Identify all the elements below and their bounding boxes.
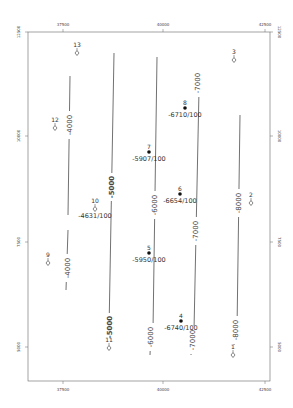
contour-lines: -4000-4000-5000-5000-6000-6000-7000-7000…: [63, 53, 243, 355]
contour-label: -5000: [108, 176, 116, 199]
well-12[interactable]: 12: [51, 116, 59, 131]
y-tick-label-right: 7500: [277, 237, 282, 248]
y-tick-label-left: 12500: [16, 25, 21, 38]
well-depth-label: -6710/100: [168, 111, 201, 119]
x-tick-label-top: 37500: [57, 22, 70, 27]
y-tick-label-left: 7500: [16, 236, 21, 247]
contour-label: -7000: [189, 330, 197, 350]
well-1[interactable]: 1: [231, 343, 235, 358]
well-diamond-icon: [75, 51, 79, 56]
well-diamond-icon: [46, 261, 50, 266]
contour-label: -4000: [64, 258, 72, 278]
contour-line: [68, 76, 70, 215]
well-depth-label: -6740/100: [164, 324, 197, 332]
contour-label: -7000: [192, 221, 200, 241]
y-tick-label-right: 10000: [277, 130, 282, 143]
well-diamond-icon: [249, 201, 253, 206]
well-3[interactable]: 3: [232, 48, 236, 63]
well-id: 13: [73, 41, 81, 48]
well-7[interactable]: 7-5907/100: [132, 143, 165, 163]
well-diamond-icon: [107, 346, 111, 351]
x-tick-label-bottom: 37500: [57, 387, 70, 392]
y-tick-label-right: 5000: [277, 342, 282, 353]
well-id: 2: [249, 191, 253, 198]
y-axis: 125001250010000100007500750050005000: [16, 25, 282, 352]
well-depth-label: -5907/100: [132, 155, 165, 163]
contour-label: -8000: [235, 193, 243, 213]
contour-label: -5000: [106, 316, 114, 339]
well-id: 5: [147, 244, 151, 251]
well-dot-icon: [183, 106, 187, 110]
well-id: 1: [231, 343, 235, 350]
well-id: 11: [105, 336, 113, 343]
well-depth-label: -4631/100: [78, 212, 111, 220]
well-6[interactable]: 6-6654/100: [163, 185, 196, 205]
well-id: 12: [51, 116, 59, 123]
well-dot-icon: [147, 251, 151, 255]
contour-label: -8000: [232, 320, 240, 340]
well-id: 10: [91, 197, 99, 204]
well-diamond-icon: [231, 353, 235, 358]
y-tick-label-left: 10000: [16, 129, 21, 142]
x-tick-label-bottom: 42500: [259, 387, 272, 392]
contour-label: -6000: [151, 195, 159, 215]
well-10[interactable]: 10-4631/100: [78, 197, 111, 220]
x-tick-label-top: 40000: [157, 22, 170, 27]
well-diamond-icon: [53, 126, 57, 131]
well-id: 7: [147, 143, 151, 150]
well-8[interactable]: 8-6710/100: [168, 99, 201, 119]
well-2[interactable]: 2: [249, 191, 253, 206]
well-dot-icon: [147, 150, 151, 154]
well-depth-label: -6654/100: [163, 197, 196, 205]
well-diamond-icon: [232, 58, 236, 63]
y-tick-label-left: 5000: [16, 341, 21, 352]
well-depth-label: -5950/100: [132, 256, 165, 264]
contour-label: -4000: [66, 115, 74, 135]
x-tick-label-bottom: 40000: [157, 387, 170, 392]
well-dot-icon: [178, 192, 182, 196]
well-5[interactable]: 5-5950/100: [132, 244, 165, 264]
well-id: 8: [183, 99, 187, 106]
well-id: 4: [179, 312, 183, 319]
contour-label: -6000: [147, 327, 155, 347]
structure-contour-map: 375003750040000400004250042500 125001250…: [0, 0, 293, 408]
well-11[interactable]: 11: [105, 336, 113, 351]
well-dot-icon: [179, 319, 183, 323]
well-id: 9: [46, 251, 50, 258]
well-13[interactable]: 13: [73, 41, 81, 56]
x-tick-label-top: 42500: [259, 22, 272, 27]
contour-label: -7000: [194, 73, 202, 93]
well-9[interactable]: 9: [46, 251, 50, 266]
well-4[interactable]: 4-6740/100: [164, 312, 197, 332]
contour-line: [237, 115, 240, 330]
well-id: 6: [178, 185, 182, 192]
well-diamond-icon: [93, 207, 97, 212]
well-id: 3: [232, 48, 236, 55]
y-tick-label-right: 12500: [277, 26, 282, 39]
contour-line: [194, 90, 199, 330]
